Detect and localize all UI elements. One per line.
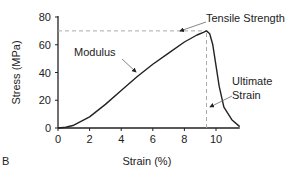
annotation-strain: Strain bbox=[232, 89, 261, 101]
x-tick-label: 4 bbox=[118, 133, 124, 145]
panel-label: B bbox=[2, 155, 9, 167]
annotation-tensile-strength: Tensile Strength bbox=[206, 12, 285, 24]
x-tick-label: 2 bbox=[87, 133, 93, 145]
y-tick-label: 60 bbox=[39, 39, 51, 51]
y-tick-label: 40 bbox=[39, 67, 51, 79]
arrow-modulus bbox=[122, 59, 136, 72]
annotation-modulus: Modulus bbox=[74, 46, 116, 58]
arrow-ultimate-strain bbox=[210, 96, 232, 107]
x-tick-label: 8 bbox=[181, 133, 187, 145]
y-tick-label: 80 bbox=[39, 11, 51, 23]
x-tick-label: 6 bbox=[150, 133, 156, 145]
y-tick-label: 20 bbox=[39, 94, 51, 106]
x-tick-label: 10 bbox=[210, 133, 222, 145]
stress-strain-chart: 0246810020406080Strain (%)Stress (MPa)BT… bbox=[0, 0, 300, 179]
x-axis-label: Strain (%) bbox=[122, 155, 171, 167]
annotation-ultimate: Ultimate bbox=[232, 75, 272, 87]
y-axis-label: Stress (MPa) bbox=[10, 40, 22, 104]
arrow-tensile-strength bbox=[180, 22, 206, 31]
chart-container: 0246810020406080Strain (%)Stress (MPa)BT… bbox=[0, 0, 300, 179]
y-tick-label: 0 bbox=[45, 122, 51, 134]
x-tick-label: 0 bbox=[55, 133, 61, 145]
